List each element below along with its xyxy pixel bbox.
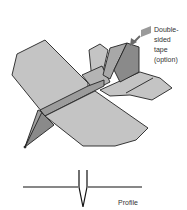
tape-label-line3: tape [154, 46, 168, 54]
profile-fuselage [79, 170, 87, 207]
tape-swatch [141, 26, 151, 37]
tape-label-line4: (option) [154, 56, 178, 64]
arrow-icon [130, 36, 140, 46]
nose-point [24, 146, 26, 148]
tape-label-line1: Double- [154, 26, 179, 33]
tape-label-line2: sided [154, 36, 171, 43]
paper-airplane-diagram: Double- sided tape (option) Profile [0, 0, 187, 210]
profile-label: Profile [118, 199, 138, 206]
airplane-illustration [12, 40, 172, 148]
